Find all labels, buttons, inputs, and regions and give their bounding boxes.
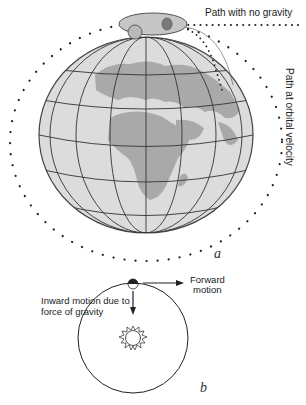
panel-letter-a: a <box>214 246 221 262</box>
earth-globe <box>39 37 253 233</box>
diagram-canvas <box>0 0 306 405</box>
label-inward-motion-1: Inward motion due to <box>41 296 130 306</box>
label-inward-motion-2: force of gravity <box>41 307 103 317</box>
sun-icon <box>119 326 147 350</box>
label-path-no-gravity: Path with no gravity <box>205 8 292 18</box>
label-path-orbital-velocity: Path at orbital velocity <box>284 68 295 166</box>
satellite-launcher <box>119 13 187 39</box>
label-forward-motion-2: motion <box>193 285 222 295</box>
panel-letter-b: b <box>200 380 207 396</box>
